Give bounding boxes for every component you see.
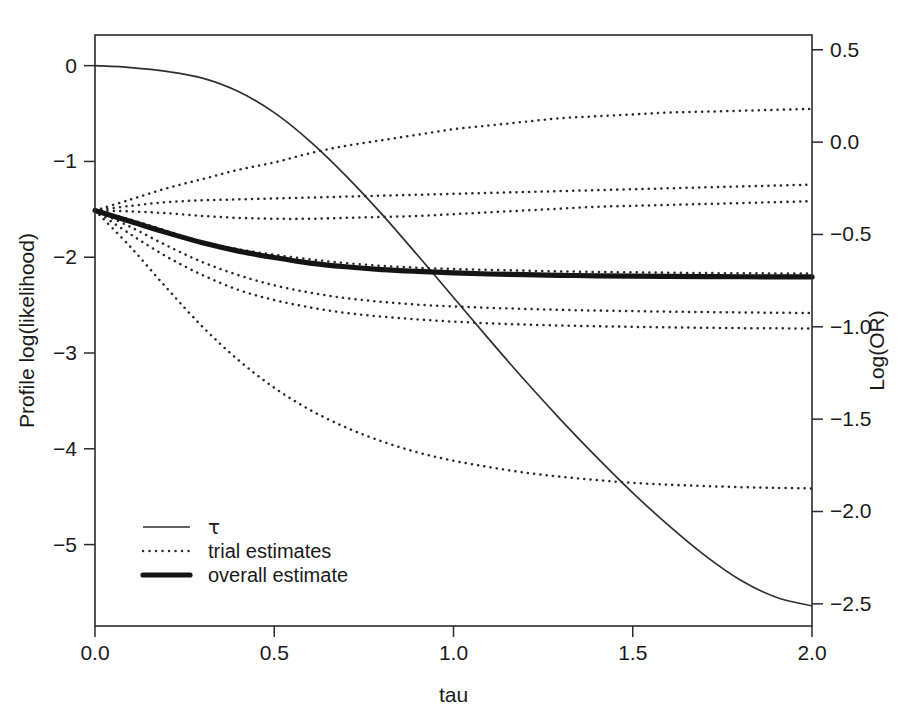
x-axis-title: tau (439, 683, 468, 706)
chart-figure: 0.00.51.01.52.0 0−1−2−3−4−5 0.50.0−0.5−1… (0, 0, 913, 714)
y2-tick-label--2.5: −2.5 (830, 592, 871, 615)
y-tick-label--1: −1 (53, 149, 77, 172)
y-axis-left-title: Profile log(likelihood) (15, 233, 38, 428)
y2-tick-label--2.0: −2.0 (830, 499, 871, 522)
legend-label-0: τ (208, 515, 220, 539)
y-axis-right-title: Log(OR) (865, 310, 888, 391)
y2-tick-label--1.5: −1.5 (830, 407, 871, 430)
y2-tick-label-0.0: 0.0 (830, 130, 859, 153)
legend-label-2: overall estimate (208, 564, 348, 586)
y-tick-label--3: −3 (53, 341, 77, 364)
legend-label-1: trial estimates (208, 540, 331, 562)
x-tick-label-0.0: 0.0 (80, 641, 109, 664)
chart-background (0, 0, 913, 714)
y2-tick-label-0.5: 0.5 (830, 38, 859, 61)
y-tick-label--4: −4 (53, 437, 77, 460)
profile-log-likelihood-chart: 0.00.51.01.52.0 0−1−2−3−4−5 0.50.0−0.5−1… (0, 0, 913, 714)
y-tick-label--2: −2 (53, 245, 77, 268)
x-tick-label-1.5: 1.5 (618, 641, 647, 664)
y2-tick-label--0.5: −0.5 (830, 222, 871, 245)
x-tick-label-1.0: 1.0 (439, 641, 468, 664)
y-tick-label--5: −5 (53, 533, 77, 556)
y-tick-label-0: 0 (65, 54, 77, 77)
x-tick-label-2.0: 2.0 (797, 641, 826, 664)
x-tick-label-0.5: 0.5 (260, 641, 289, 664)
